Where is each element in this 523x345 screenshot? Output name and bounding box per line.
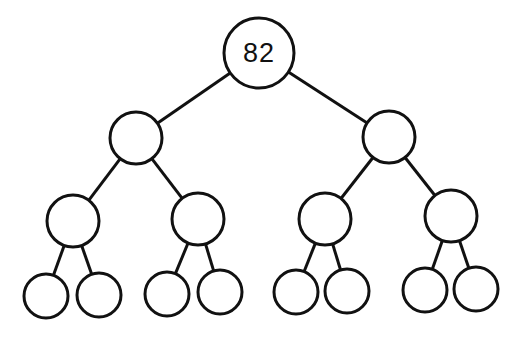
tree-edges [53, 72, 468, 275]
tree-edge [405, 157, 435, 195]
tree-edge [89, 159, 121, 201]
node-circle [77, 273, 121, 317]
tree-edge [341, 157, 373, 198]
node-circle [274, 270, 318, 314]
node-label: 82 [243, 38, 275, 68]
node-circle [363, 111, 415, 163]
tree-node [274, 270, 318, 314]
tree-node [198, 270, 242, 314]
tree-node [403, 268, 447, 312]
node-circle [47, 195, 99, 247]
tree-node [454, 267, 498, 311]
tree-node [425, 190, 477, 242]
tree-node [77, 273, 121, 317]
root-node: 82 [224, 18, 294, 88]
tree-edge [152, 159, 182, 199]
node-circle [24, 274, 68, 318]
node-circle [198, 270, 242, 314]
tree-edge [432, 241, 442, 270]
tree-edge [288, 72, 367, 123]
tree-node [299, 193, 351, 245]
tree-edge [333, 244, 341, 270]
tree-node [47, 195, 99, 247]
node-circle [110, 112, 162, 164]
node-circle [425, 190, 477, 242]
tree-nodes: 82 [24, 18, 498, 318]
node-circle [403, 268, 447, 312]
tree-node [24, 274, 68, 318]
node-circle [172, 193, 224, 245]
tree-node [172, 193, 224, 245]
tree-edge [459, 241, 468, 269]
tree-edge [82, 246, 92, 275]
node-circle [454, 267, 498, 311]
node-circle [299, 193, 351, 245]
node-circle [325, 269, 369, 313]
binary-tree-diagram: 82 [0, 0, 523, 345]
tree-edge [157, 73, 230, 123]
tree-edge [53, 245, 64, 275]
node-circle [145, 272, 189, 316]
tree-node [145, 272, 189, 316]
tree-node [363, 111, 415, 163]
tree-node [325, 269, 369, 313]
tree-edge [304, 243, 315, 271]
tree-node [110, 112, 162, 164]
tree-edge [175, 243, 188, 274]
tree-edge [206, 244, 214, 271]
